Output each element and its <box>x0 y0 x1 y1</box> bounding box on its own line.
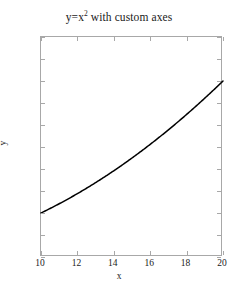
y-tick-mark <box>41 191 45 192</box>
y-tick-mark <box>41 81 45 82</box>
y-tick-mark <box>217 147 221 148</box>
y-tick-mark <box>41 103 45 104</box>
x-tick-mark <box>150 251 151 255</box>
y-tick-mark <box>217 125 221 126</box>
y-tick-mark <box>41 125 45 126</box>
y-tick-mark <box>217 169 221 170</box>
data-curve <box>41 37 223 257</box>
y-tick-mark <box>217 59 221 60</box>
x-tick-mark <box>41 37 42 41</box>
y-tick-mark <box>41 59 45 60</box>
x-tick-label: 18 <box>181 258 191 268</box>
y-tick-mark <box>217 81 221 82</box>
x-tick-mark <box>223 37 224 41</box>
x-tick-label: 14 <box>108 258 118 268</box>
y-tick-mark <box>41 257 45 258</box>
x-tick-label: 20 <box>217 258 227 268</box>
y-tick-mark <box>217 235 221 236</box>
series-line-y-equals-x-squared <box>41 81 223 213</box>
y-tick-mark <box>217 191 221 192</box>
chart-title-base: y=x <box>66 11 84 23</box>
y-tick-mark <box>217 37 221 38</box>
x-tick-mark <box>114 251 115 255</box>
y-axis-label: y <box>0 141 8 146</box>
chart-title-rest: with custom axes <box>88 11 172 23</box>
x-tick-label: 16 <box>144 258 154 268</box>
y-tick-mark <box>41 235 45 236</box>
x-tick-label: 10 <box>35 258 45 268</box>
x-tick-mark <box>41 251 42 255</box>
figure-canvas: y=x2 with custom axes 050100150200250300… <box>0 0 238 291</box>
y-tick-mark <box>217 103 221 104</box>
x-tick-mark <box>150 37 151 41</box>
chart-title: y=x2 with custom axes <box>0 11 238 23</box>
y-tick-mark <box>217 257 221 258</box>
x-tick-mark <box>187 251 188 255</box>
y-tick-mark <box>41 213 45 214</box>
x-tick-mark <box>187 37 188 41</box>
plot-area <box>40 36 222 256</box>
x-tick-mark <box>223 251 224 255</box>
x-tick-label: 12 <box>72 258 82 268</box>
x-axis-label: x <box>0 271 238 281</box>
x-tick-mark <box>114 37 115 41</box>
y-tick-mark <box>41 169 45 170</box>
y-tick-mark <box>217 213 221 214</box>
y-tick-mark <box>41 147 45 148</box>
x-tick-mark <box>77 37 78 41</box>
x-tick-mark <box>77 251 78 255</box>
